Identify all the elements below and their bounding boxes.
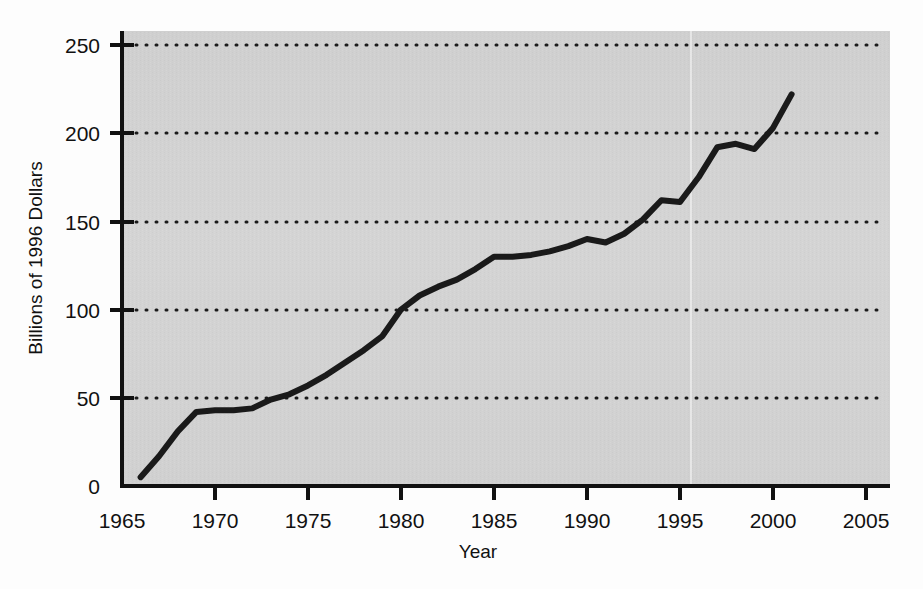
chart-figure: 250 200 150 100 50 0 1965 1970 1975 1980…: [0, 0, 923, 589]
x-tick-label-1965: 1965: [99, 509, 146, 532]
y-tick-label-150: 150: [65, 211, 100, 234]
y-tick-label-0: 0: [88, 475, 100, 498]
x-tick-label-2000: 2000: [750, 509, 797, 532]
scan-artifact-line: [690, 31, 692, 486]
x-tick-label-1975: 1975: [285, 509, 332, 532]
x-axis-title: Year: [459, 541, 498, 562]
y-tick-label-200: 200: [65, 122, 100, 145]
x-tick-labels: 1965 1970 1975 1980 1985 1990 1995 2000 …: [99, 509, 890, 532]
y-axis-title: Billions of 1996 Dollars: [25, 161, 46, 354]
x-tick-label-1990: 1990: [564, 509, 611, 532]
x-tick-label-1980: 1980: [378, 509, 425, 532]
line-chart: 250 200 150 100 50 0 1965 1970 1975 1980…: [0, 0, 923, 589]
x-tick-label-1985: 1985: [471, 509, 518, 532]
x-tick-label-1970: 1970: [192, 509, 239, 532]
x-tick-label-2005: 2005: [843, 509, 890, 532]
x-tick-label-1995: 1995: [657, 509, 704, 532]
y-tick-label-50: 50: [77, 387, 100, 410]
y-tick-label-250: 250: [65, 34, 100, 57]
y-tick-label-100: 100: [65, 299, 100, 322]
